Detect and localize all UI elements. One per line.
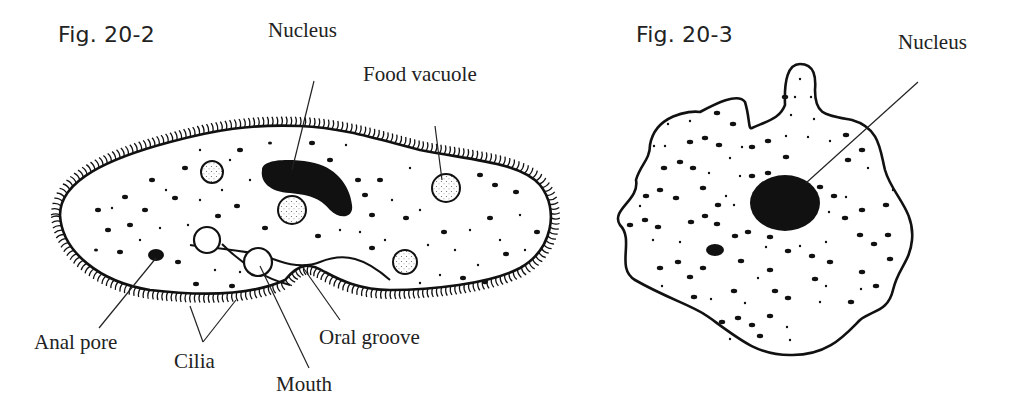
- contractile-vacuole: [194, 227, 220, 253]
- amoeba: [618, 64, 918, 355]
- leader-cilia-left: [190, 306, 203, 342]
- amoeba-vacuole: [706, 244, 724, 256]
- paramecium: [51, 81, 560, 368]
- leader-cilia-right: [203, 300, 236, 342]
- mouth-vacuole: [244, 248, 272, 276]
- anal-pore: [148, 249, 164, 261]
- diagram-canvas: [0, 0, 1016, 414]
- amoeba-nucleus: [750, 175, 820, 231]
